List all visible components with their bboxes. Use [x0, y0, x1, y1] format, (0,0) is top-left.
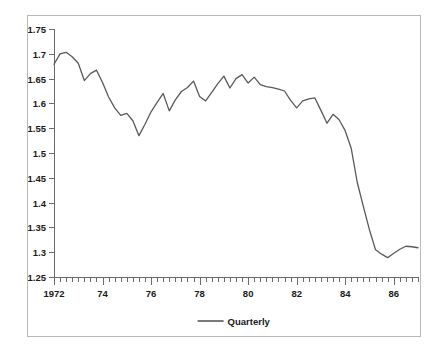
x-tick-label: 74	[97, 288, 108, 299]
y-tick-label: 1.6	[33, 98, 46, 109]
x-tick-label: 1972	[43, 288, 64, 299]
x-tick-label: 82	[291, 288, 302, 299]
chart-legend: Quarterly	[198, 316, 271, 327]
y-axis: 1.751.71.651.61.551.51.451.41.351.31.25	[28, 24, 55, 283]
y-tick-label: 1.3	[33, 247, 46, 258]
series-line-quarterly	[54, 52, 418, 257]
line-chart: 1.751.71.651.61.551.51.451.41.351.31.25 …	[28, 16, 420, 336]
chart-frame: 1.751.71.651.61.551.51.451.41.351.31.25 …	[27, 15, 421, 337]
y-tick-label: 1.65	[28, 74, 47, 85]
y-tick-label: 1.25	[28, 272, 47, 283]
data-series-group	[54, 52, 418, 257]
y-tick-label: 1.7	[33, 49, 46, 60]
legend-label: Quarterly	[228, 316, 271, 327]
y-tick-label: 1.5	[33, 148, 47, 159]
x-tick-label: 84	[340, 288, 351, 299]
y-tick-label: 1.4	[33, 198, 47, 209]
x-axis: 197274767880828486	[43, 277, 418, 299]
y-tick-label: 1.55	[28, 123, 47, 134]
x-tick-label: 80	[243, 288, 254, 299]
x-tick-label: 78	[194, 288, 205, 299]
y-tick-label: 1.45	[28, 173, 47, 184]
x-tick-label: 76	[146, 288, 157, 299]
x-tick-label: 86	[388, 288, 399, 299]
y-tick-label: 1.75	[28, 24, 47, 35]
y-tick-label: 1.35	[28, 222, 47, 233]
